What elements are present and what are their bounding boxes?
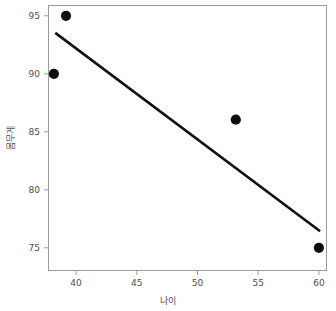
data-point bbox=[314, 243, 324, 253]
x-tick-label-60: 60 bbox=[313, 278, 325, 288]
data-point bbox=[49, 69, 59, 79]
x-tick-label-50: 50 bbox=[192, 278, 204, 288]
x-tick-label-45: 45 bbox=[131, 278, 142, 288]
y-tick-label-80: 80 bbox=[29, 185, 41, 195]
x-axis-title: 나이 bbox=[160, 296, 176, 306]
y-tick-label-85: 85 bbox=[29, 127, 40, 137]
right-margin-mask bbox=[327, 0, 336, 311]
data-point bbox=[231, 115, 241, 125]
plot-canvas: 95 90 85 80 75 40 45 50 55 60 나이 몸무게 bbox=[0, 0, 336, 311]
figure-background bbox=[0, 0, 336, 311]
y-tick-label-75: 75 bbox=[29, 243, 40, 253]
y-tick-label-95: 95 bbox=[29, 11, 40, 21]
y-axis-title: 몸무게 bbox=[6, 126, 16, 150]
x-tick-label-55: 55 bbox=[252, 278, 263, 288]
scatter-plot-figure: 95 90 85 80 75 40 45 50 55 60 나이 몸무게 bbox=[0, 0, 336, 311]
y-tick-label-90: 90 bbox=[29, 69, 41, 79]
x-tick-label-40: 40 bbox=[70, 278, 82, 288]
data-point bbox=[61, 11, 71, 21]
